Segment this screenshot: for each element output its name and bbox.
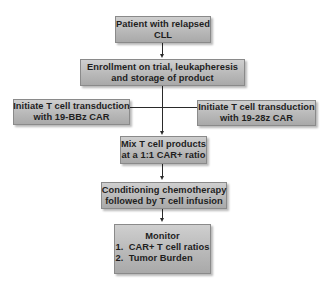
node-transduction-1928z: Initiate T cell transduction with 19-28z…	[197, 100, 316, 126]
node-transduction-19bbz-line1: Initiate T cell transduction	[13, 101, 130, 112]
arrowhead-monitor	[160, 218, 164, 222]
node-transduction-19bbz: Initiate T cell transduction with 19-BBz…	[13, 99, 130, 125]
node-transduction-19bbz-line2: with 19-BBz CAR	[33, 112, 109, 123]
node-conditioning: Conditioning chemotherapy followed by T …	[101, 182, 227, 209]
node-enrollment: Enrollment on trial, leukapheresis and s…	[80, 59, 245, 86]
node-conditioning-line1: Conditioning chemotherapy	[102, 185, 227, 196]
node-conditioning-line2: followed by T cell infusion	[105, 196, 223, 207]
node-monitor: Monitor 1. CAR+ T cell ratios 2. Tumor B…	[114, 224, 211, 274]
node-mix: Mix T cell products at a 1:1 CAR+ ratio	[120, 136, 207, 164]
node-monitor-title: Monitor	[145, 231, 179, 242]
connector-enrollment-to-mix	[162, 86, 163, 132]
monitor-item-car-ratios: 1. CAR+ T cell ratios	[116, 242, 210, 253]
arrowhead-conditioning	[160, 176, 164, 180]
node-mix-line2: at a 1:1 CAR+ ratio	[122, 150, 206, 161]
monitor-list: 1. CAR+ T cell ratios 2. Tumor Burden	[116, 242, 210, 264]
node-patient-line2: CLL	[154, 30, 172, 41]
arrowhead-enrollment	[160, 54, 164, 58]
node-transduction-1928z-line2: with 19-28z CAR	[220, 113, 293, 124]
node-patient-line1: Patient with relapsed	[116, 19, 210, 30]
node-transduction-1928z-line1: Initiate T cell transduction	[198, 102, 315, 113]
node-mix-line1: Mix T cell products	[121, 139, 206, 150]
monitor-item-tumor-burden: 2. Tumor Burden	[116, 253, 210, 264]
node-enrollment-line1: Enrollment on trial, leukapheresis	[87, 62, 238, 73]
connector-transduction-horizontal	[130, 107, 197, 108]
arrowhead-mix	[160, 131, 164, 135]
node-enrollment-line2: and storage of product	[111, 73, 213, 84]
node-patient: Patient with relapsed CLL	[115, 16, 211, 43]
